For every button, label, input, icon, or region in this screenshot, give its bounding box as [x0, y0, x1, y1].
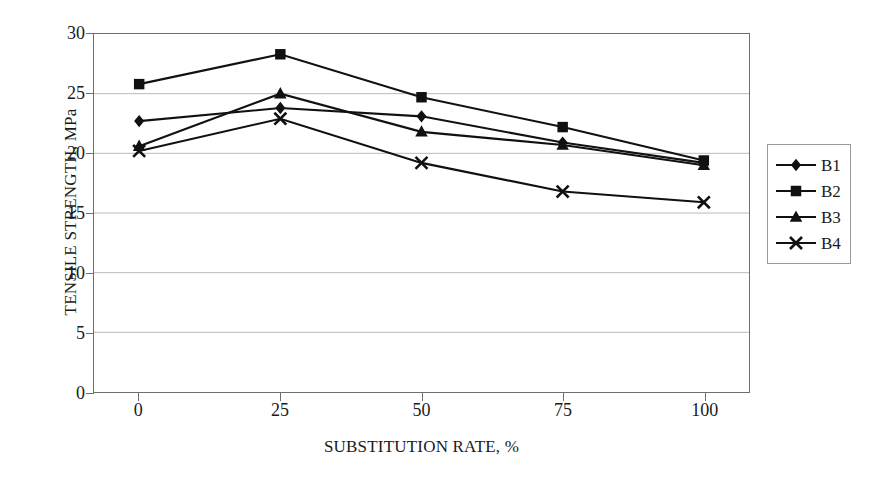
y-axis-tick-labels: 051015202530	[33, 33, 85, 393]
legend-label: B2	[821, 183, 841, 200]
legend-item-B1[interactable]: B1	[775, 152, 841, 178]
legend-swatch-square	[775, 180, 817, 202]
legend-swatch-triangle	[775, 206, 817, 228]
y-tick-label: 25	[45, 84, 85, 102]
data-point-square-marker	[557, 122, 567, 132]
data-point-diamond-marker	[416, 110, 426, 122]
plot-area	[93, 33, 750, 393]
legend-swatch-cross	[775, 232, 817, 254]
legend-item-B4[interactable]: B4	[775, 230, 841, 256]
y-tick-label: 5	[45, 324, 85, 342]
data-point-diamond-marker	[275, 102, 285, 114]
x-tick-label: 0	[108, 400, 168, 420]
y-tick-label: 15	[45, 204, 85, 222]
x-tick-label: 75	[533, 400, 593, 420]
legend-item-B3[interactable]: B3	[775, 204, 841, 230]
legend-swatch-diamond	[775, 154, 817, 176]
data-point-triangle-marker	[274, 87, 287, 98]
data-point-square-marker	[275, 49, 285, 59]
series-B2	[134, 49, 709, 166]
data-point-square-marker	[791, 186, 802, 197]
legend-label: B4	[821, 235, 841, 252]
data-point-square-marker	[416, 92, 426, 102]
data-point-diamond-marker	[134, 115, 144, 127]
data-series-layer	[94, 34, 749, 392]
x-tick-label: 25	[250, 400, 310, 420]
chart-legend: B1B2B3B4	[767, 144, 851, 264]
chart-figure: TENSILE STRENGTH, MPa 051015202530 02550…	[0, 0, 876, 486]
legend-label: B1	[821, 157, 841, 174]
data-point-square-marker	[134, 79, 144, 89]
x-axis-title: SUBSTITUTION RATE, %	[93, 437, 750, 457]
y-tick-label: 10	[45, 264, 85, 282]
legend-item-B2[interactable]: B2	[775, 178, 841, 204]
y-tick-label: 30	[45, 24, 85, 42]
x-tick-label: 100	[675, 400, 735, 420]
legend-label: B3	[821, 209, 841, 226]
y-tick-label: 0	[45, 384, 85, 402]
x-axis-tick-labels: 0255075100	[93, 400, 750, 426]
x-tick-label: 50	[392, 400, 452, 420]
series-line-B2	[139, 54, 704, 160]
data-point-diamond-marker	[791, 159, 801, 171]
y-tick-label: 20	[45, 144, 85, 162]
